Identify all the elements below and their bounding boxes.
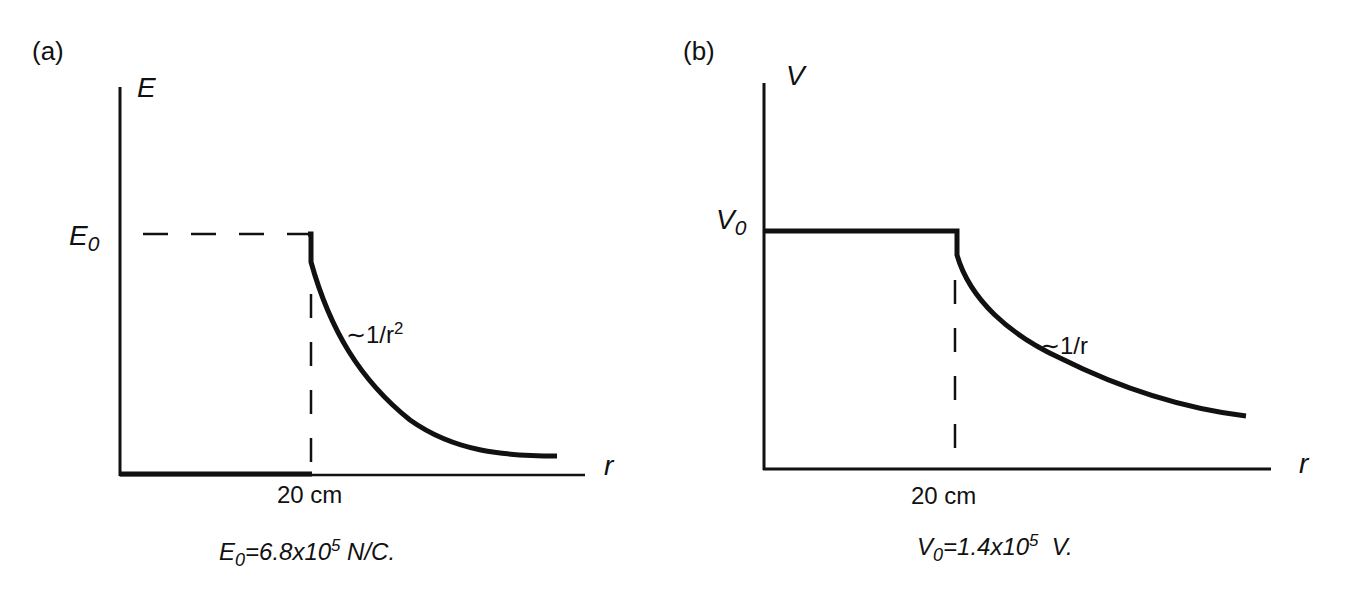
panel-a-x-tick-20cm: 20 cm — [277, 483, 342, 507]
panel-a-y-tick-e0: E0 — [69, 222, 99, 250]
panel-a-x-axis-label: r — [604, 452, 613, 480]
caption-b-symbol: V — [917, 533, 933, 560]
caption-a-sub: 0 — [235, 550, 245, 570]
caption-b-sub: 0 — [933, 545, 943, 565]
panel-b-curve-annotation: ∼1/r — [1040, 334, 1088, 358]
inverse-square-exponent: 2 — [394, 319, 403, 338]
panel-b-graphics — [763, 83, 1271, 470]
panel-a-label: (a) — [32, 38, 64, 64]
e0-sub: 0 — [88, 232, 100, 255]
panel-a-graphics — [119, 87, 585, 476]
caption-a-units: N/C. — [340, 538, 395, 565]
inverse-square-text: ∼1/r — [346, 321, 394, 348]
panel-b-x-tick-20cm: 20 cm — [911, 484, 976, 508]
figure-graphics — [0, 0, 1345, 609]
e0-main: E — [69, 220, 88, 251]
panel-b-x-axis-label: r — [1299, 450, 1308, 478]
panel-b-label: (b) — [683, 38, 715, 64]
panel-a-y-axis-label: E — [137, 74, 156, 102]
panel-b-caption: V0=1.4x105 V. — [917, 535, 1073, 559]
v0-main: V — [716, 204, 735, 235]
caption-b-value: =1.4x10 — [943, 533, 1029, 560]
caption-b-units: V. — [1038, 533, 1072, 560]
panel-a-curve-annotation: ∼1/r2 — [346, 323, 403, 347]
panel-b-y-axis-label: V — [786, 62, 805, 90]
caption-a-value: =6.8x10 — [245, 538, 331, 565]
panel-b-potential-curve — [764, 231, 1246, 416]
panel-a-caption: E0=6.8x105 N/C. — [219, 540, 395, 564]
panel-b-y-tick-v0: V0 — [716, 206, 746, 234]
caption-a-symbol: E — [219, 538, 235, 565]
v0-sub: 0 — [735, 216, 747, 239]
